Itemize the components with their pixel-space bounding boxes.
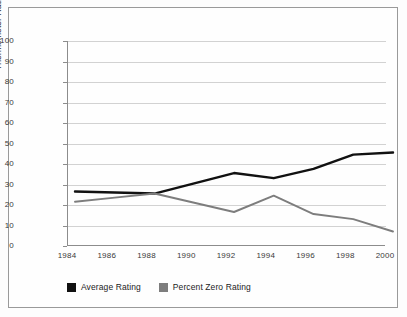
chart-figure: Thermometer Rating/Percent Average Ratin… xyxy=(0,0,407,317)
plot-area xyxy=(67,41,385,246)
gridline xyxy=(68,226,386,227)
gridline xyxy=(68,41,386,42)
legend-label: Percent Zero Rating xyxy=(173,282,251,292)
legend-swatch-icon xyxy=(67,283,76,292)
y-axis-tick-label: 60 xyxy=(0,118,14,127)
y-axis-tick-label: 50 xyxy=(0,139,14,148)
y-axis-tick-mark xyxy=(63,62,67,63)
gridline xyxy=(68,123,386,124)
x-axis-tick-label: 1998 xyxy=(325,251,365,260)
gridline xyxy=(68,185,386,186)
x-axis-tick-label: 1990 xyxy=(166,251,206,260)
x-axis-tick-label: 1994 xyxy=(246,251,286,260)
y-axis-tick-mark xyxy=(63,185,67,186)
y-axis-tick-label: 80 xyxy=(0,77,14,86)
y-axis-tick-mark xyxy=(63,144,67,145)
legend-item: Average Rating xyxy=(67,282,141,292)
y-axis-tick-mark xyxy=(63,205,67,206)
gridline xyxy=(68,103,386,104)
gridline xyxy=(68,62,386,63)
chart-legend: Average RatingPercent Zero Rating xyxy=(67,282,251,292)
y-axis-tick-mark xyxy=(63,164,67,165)
x-axis-tick-label: 2000 xyxy=(365,251,405,260)
y-axis-tick-mark xyxy=(63,41,67,42)
y-axis-tick-mark xyxy=(63,82,67,83)
gridline xyxy=(68,205,386,206)
y-axis-tick-mark xyxy=(63,246,67,247)
gridline xyxy=(68,164,386,165)
legend-item: Percent Zero Rating xyxy=(159,282,251,292)
y-axis-tick-label: 90 xyxy=(0,57,14,66)
x-axis-tick-label: 1984 xyxy=(47,251,87,260)
y-axis-tick-label: 0 xyxy=(0,241,14,250)
y-axis-tick-label: 100 xyxy=(0,36,14,45)
y-axis-tick-label: 10 xyxy=(0,221,14,230)
gridline xyxy=(68,144,386,145)
y-axis-tick-label: 20 xyxy=(0,200,14,209)
x-axis-tick-label: 1996 xyxy=(286,251,326,260)
x-axis-tick-label: 1988 xyxy=(127,251,167,260)
x-axis-tick-label: 1986 xyxy=(87,251,127,260)
y-axis-tick-mark xyxy=(63,103,67,104)
x-axis-tick-label: 1992 xyxy=(206,251,246,260)
legend-swatch-icon xyxy=(159,283,168,292)
y-axis-tick-label: 30 xyxy=(0,180,14,189)
y-axis-tick-mark xyxy=(63,123,67,124)
chart-frame: Thermometer Rating/Percent Average Ratin… xyxy=(8,7,398,308)
gridline xyxy=(68,82,386,83)
y-axis-tick-mark xyxy=(63,226,67,227)
y-axis-tick-label: 70 xyxy=(0,98,14,107)
y-axis-tick-label: 40 xyxy=(0,159,14,168)
legend-label: Average Rating xyxy=(81,282,141,292)
